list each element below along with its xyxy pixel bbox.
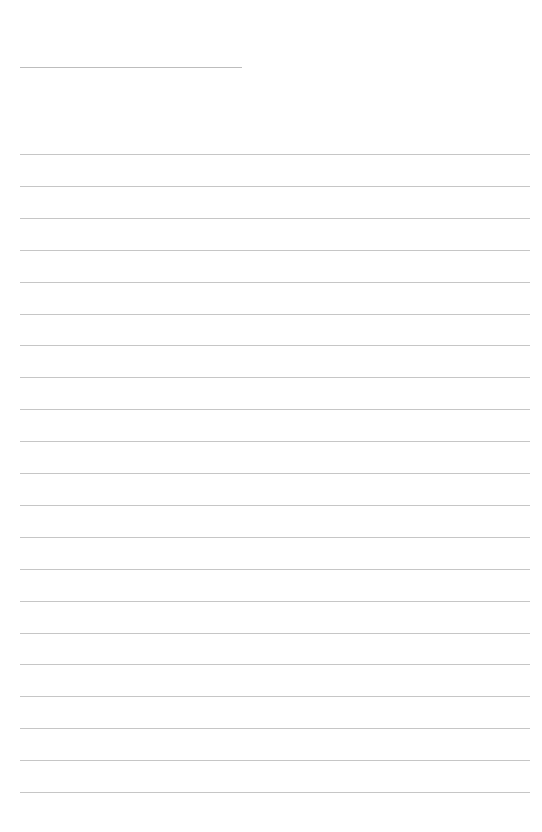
ruled-line	[20, 218, 530, 219]
ruled-line	[20, 186, 530, 187]
ruled-line	[20, 345, 530, 346]
ruled-line	[20, 282, 530, 283]
ruled-line	[20, 601, 530, 602]
ruled-line	[20, 314, 530, 315]
ruled-line	[20, 537, 530, 538]
title-line	[20, 67, 242, 68]
ruled-line	[20, 569, 530, 570]
ruled-line	[20, 728, 530, 729]
ruled-line	[20, 154, 530, 155]
ruled-line	[20, 664, 530, 665]
ruled-line	[20, 473, 530, 474]
ruled-line	[20, 441, 530, 442]
ruled-line	[20, 409, 530, 410]
ruled-line	[20, 505, 530, 506]
ruled-line	[20, 250, 530, 251]
ruled-line	[20, 792, 530, 793]
ruled-line	[20, 633, 530, 634]
lined-paper-page	[0, 0, 542, 832]
ruled-line	[20, 760, 530, 761]
ruled-line	[20, 377, 530, 378]
ruled-line	[20, 696, 530, 697]
